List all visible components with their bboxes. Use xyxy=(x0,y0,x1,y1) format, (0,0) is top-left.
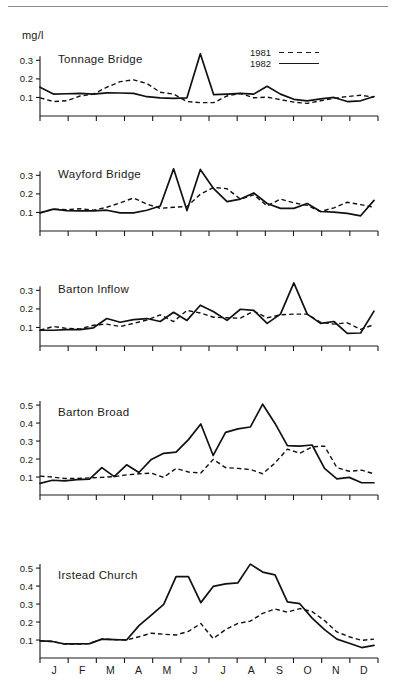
y-tick-label: 0.1 xyxy=(20,207,33,218)
y-axis-unit-label: mg/l xyxy=(22,29,44,41)
x-axis-month-label: J xyxy=(51,664,56,676)
series-line-1981 xyxy=(40,609,374,644)
y-tick-label: 0.2 xyxy=(20,303,33,314)
x-axis-month-label: D xyxy=(360,664,368,676)
y-tick-label: 0.2 xyxy=(20,454,33,465)
y-tick-label: 0.5 xyxy=(20,400,33,411)
axis-lines xyxy=(40,56,378,116)
y-tick-label: 0.1 xyxy=(20,322,33,333)
x-axis-month-label: N xyxy=(332,664,340,676)
y-tick-label: 0.1 xyxy=(20,92,33,103)
y-tick-label: 0.3 xyxy=(20,285,33,296)
y-tick-label: 0.4 xyxy=(20,418,33,429)
x-axis-month-label: A xyxy=(135,664,142,676)
y-tick-label: 0.1 xyxy=(20,635,33,646)
x-axis-month-label: S xyxy=(276,664,283,676)
series-line-1981 xyxy=(40,446,374,478)
y-tick-label: 0.3 xyxy=(20,436,33,447)
axis-lines xyxy=(40,171,378,231)
y-tick-label: 0.5 xyxy=(20,563,33,574)
x-axis-month-label: O xyxy=(303,664,311,676)
x-axis-month-label: M xyxy=(106,664,115,676)
y-tick-label: 0.1 xyxy=(20,472,33,483)
x-axis-month-label: M xyxy=(162,664,171,676)
figure-root: mg/l 1981 1982 0.10.20.3 Tonnage Bridge … xyxy=(0,0,396,691)
y-tick-label: 0.2 xyxy=(20,188,33,199)
panel-wayford-bridge: 0.10.20.3 Wayford Bridge xyxy=(0,159,396,249)
x-axis-month-label: F xyxy=(79,664,85,676)
panel-title: Barton Inflow xyxy=(58,283,129,295)
panel-tonnage-bridge: 0.10.20.3 Tonnage Bridge xyxy=(0,44,396,134)
series-line-1981 xyxy=(40,80,374,104)
y-tick-label: 0.3 xyxy=(20,170,33,181)
panel-title: Tonnage Bridge xyxy=(58,53,143,65)
panel-irstead-church: 0.10.20.30.40.5JFMAMJJASOND Irstead Chur… xyxy=(0,552,396,676)
x-axis-month-label: A xyxy=(248,664,255,676)
axis-lines xyxy=(40,286,378,346)
y-tick-label: 0.3 xyxy=(20,599,33,610)
page-top-rule xyxy=(8,6,388,7)
panel-barton-inflow: 0.10.20.3 Barton Inflow xyxy=(0,274,396,364)
panel-title: Irstead Church xyxy=(58,569,138,581)
panel-title: Barton Broad xyxy=(58,406,129,418)
series-line-1981 xyxy=(40,187,374,212)
x-axis-month-label: J xyxy=(220,664,225,676)
y-tick-label: 0.2 xyxy=(20,73,33,84)
panel-barton-broad: 0.10.20.30.40.5 Barton Broad xyxy=(0,389,396,513)
y-tick-label: 0.3 xyxy=(20,55,33,66)
y-tick-label: 0.4 xyxy=(20,581,33,592)
x-axis-month-label: J xyxy=(192,664,197,676)
series-line-1981 xyxy=(40,310,374,330)
y-tick-label: 0.2 xyxy=(20,617,33,628)
panel-title: Wayford Bridge xyxy=(58,168,141,180)
